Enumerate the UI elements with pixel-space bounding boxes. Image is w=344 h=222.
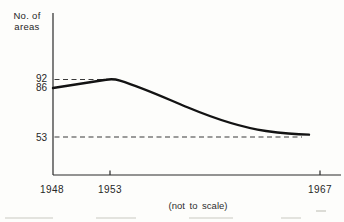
plot-canvas (0, 0, 344, 222)
cutoff-caption-artifact (5, 217, 53, 219)
data-curve (53, 79, 309, 134)
cutoff-caption-artifact (281, 217, 301, 219)
line-chart-figure: No. of areas 92 86 53 1948 1953 1967 (no… (0, 0, 344, 222)
axes (53, 13, 341, 175)
print-speck-artifact (316, 210, 326, 212)
cutoff-caption-artifact (189, 217, 233, 219)
cutoff-caption-artifact (96, 217, 136, 219)
reference-lines (55, 80, 303, 138)
